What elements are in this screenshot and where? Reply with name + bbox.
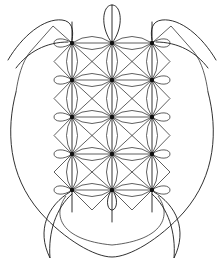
right-front-flipper-angle (152, 26, 194, 52)
grid-node (150, 115, 154, 119)
grid-node (70, 78, 74, 82)
left-front-flipper-angle (30, 26, 72, 52)
grid-node (150, 188, 154, 192)
turtle-figure (0, 0, 224, 265)
turtle-diagram (0, 0, 224, 265)
left-shell-join (16, 52, 30, 92)
right-rear-flipper (152, 192, 180, 258)
grid-node (110, 115, 114, 119)
grid-node (70, 115, 74, 119)
grid-node (70, 41, 74, 45)
grid-node (150, 78, 154, 82)
right-shell-join (194, 52, 208, 92)
grid-node (110, 152, 114, 156)
grid-node (150, 41, 154, 45)
grid-node (110, 188, 114, 192)
grid-node (70, 152, 74, 156)
grid-node (110, 41, 114, 45)
grid-node (110, 78, 114, 82)
grid-node (150, 152, 154, 156)
left-rear-flipper (44, 192, 72, 258)
grid-node (70, 188, 74, 192)
